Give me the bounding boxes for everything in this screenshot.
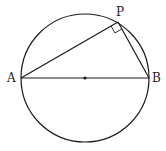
label-b: B — [152, 71, 161, 85]
circle-diagram: A B P — [0, 0, 166, 151]
label-a: A — [6, 71, 16, 85]
chord-pb — [118, 22, 149, 78]
center-dot — [83, 76, 86, 79]
label-p: P — [116, 5, 124, 19]
chord-ap — [21, 22, 118, 78]
